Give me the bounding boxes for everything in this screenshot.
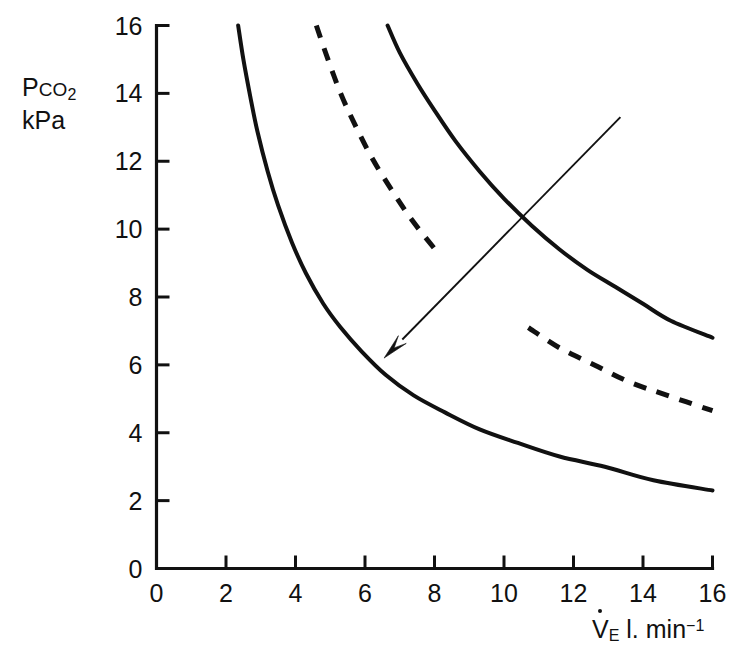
y-axis-ticks xyxy=(157,26,170,501)
y-axis-tick-label: 14 xyxy=(115,79,143,107)
x-axis-title-unit: l. min xyxy=(619,615,686,643)
y-axis-title-p: P xyxy=(22,73,39,101)
y-axis-title-subscript: 2 xyxy=(68,86,77,103)
y-axis-tick-label: 4 xyxy=(129,419,143,447)
y-axis-title: PCO2 kPa xyxy=(22,72,77,135)
axes-group: 0246810121416 0246810121416 xyxy=(115,12,727,607)
x-axis-tick-label: 4 xyxy=(289,579,303,607)
y-axis-tick-label: 2 xyxy=(129,487,143,515)
x-axis-title-v-dot: V xyxy=(592,614,609,645)
co2-response-chart: 0246810121416 0246810121416 xyxy=(0,0,743,659)
y-axis-tick-label: 10 xyxy=(115,215,143,243)
y-axis-title-line-1: PCO2 xyxy=(22,72,77,105)
y-axis-tick-label: 0 xyxy=(129,555,143,583)
x-axis-title-superscript: −1 xyxy=(686,617,704,634)
middle-curve-dashed xyxy=(316,26,438,253)
x-axis-tick-label: 8 xyxy=(428,579,442,607)
x-axis-tick-label: 0 xyxy=(150,579,164,607)
x-axis-tick-label: 14 xyxy=(629,579,657,607)
x-axis-title-subscript: E xyxy=(609,627,620,644)
middle-curve-dashed xyxy=(528,328,712,411)
y-axis-tick-labels: 0246810121416 xyxy=(115,12,143,583)
shift-arrow-shaft xyxy=(402,117,620,339)
y-axis-title-line-2: kPa xyxy=(22,105,77,136)
x-axis-title: VE l. min−1 xyxy=(592,614,704,646)
y-axis-tick-label: 16 xyxy=(115,12,143,40)
x-axis-tick-label: 16 xyxy=(699,579,727,607)
x-axis-tick-label: 2 xyxy=(219,579,233,607)
curves-group xyxy=(238,26,712,491)
y-axis-tick-label: 12 xyxy=(115,147,143,175)
x-axis-tick-label: 6 xyxy=(358,579,372,607)
annotations-group xyxy=(384,117,620,358)
y-axis-tick-label: 6 xyxy=(129,351,143,379)
x-axis-tick-label: 12 xyxy=(560,579,588,607)
y-axis-title-co: CO xyxy=(39,79,68,100)
x-axis-tick-labels: 0246810121416 xyxy=(150,579,727,607)
left-curve xyxy=(238,26,712,491)
x-axis-ticks xyxy=(226,556,713,569)
figure-container: 0246810121416 0246810121416 PCO2 kPa VE … xyxy=(0,0,743,659)
right-curve xyxy=(388,26,713,338)
y-axis-tick-label: 8 xyxy=(129,283,143,311)
x-axis-tick-label: 10 xyxy=(490,579,518,607)
